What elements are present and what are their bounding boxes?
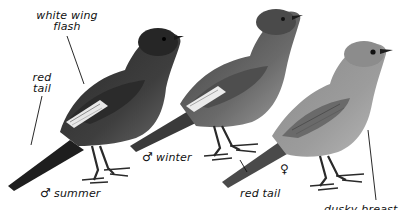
red-tail-male-line2: tail	[30, 83, 54, 94]
female-symbol-icon: ♀	[280, 162, 289, 176]
white-wing-flash-line2: flash	[36, 21, 98, 32]
white-wing-flash-label: white wing flash	[36, 10, 98, 32]
bird-male-summer	[8, 28, 184, 191]
male-symbol-icon: ♂	[40, 186, 51, 200]
caption-male-summer-text: summer	[54, 187, 101, 200]
bird-illustration: white wing flash red tail ♂summer ♂winte…	[0, 0, 403, 210]
red-tail-female-label: red tail	[240, 188, 281, 199]
male-symbol-icon: ♂	[142, 150, 153, 164]
caption-female: ♀	[280, 164, 292, 175]
caption-male-winter: ♂winter	[142, 152, 192, 163]
red-tail-male-label: red tail	[30, 72, 54, 94]
dusky-breast-label: dusky breast	[324, 204, 398, 210]
caption-male-winter-text: winter	[156, 151, 192, 164]
caption-male-summer: ♂summer	[40, 188, 101, 199]
